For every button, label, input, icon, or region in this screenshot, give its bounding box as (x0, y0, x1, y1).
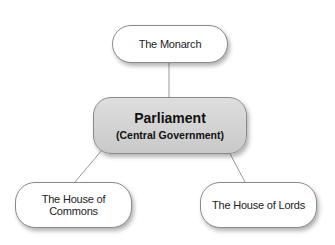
node-parliament: Parliament (Central Government) (93, 97, 247, 154)
node-monarch-label: The Monarch (139, 38, 202, 50)
node-house-of-commons: The House of Commons (15, 182, 132, 228)
node-monarch: The Monarch (112, 25, 228, 63)
connector-parliament-commons (75, 150, 102, 182)
node-parliament-title: Parliament (134, 110, 206, 126)
connector-parliament-lords (228, 150, 245, 182)
node-house-of-lords: The House of Lords (200, 182, 317, 228)
node-commons-label: The House of Commons (16, 193, 131, 217)
node-lords-label: The House of Lords (212, 199, 305, 211)
node-parliament-subtitle: (Central Government) (116, 129, 224, 141)
